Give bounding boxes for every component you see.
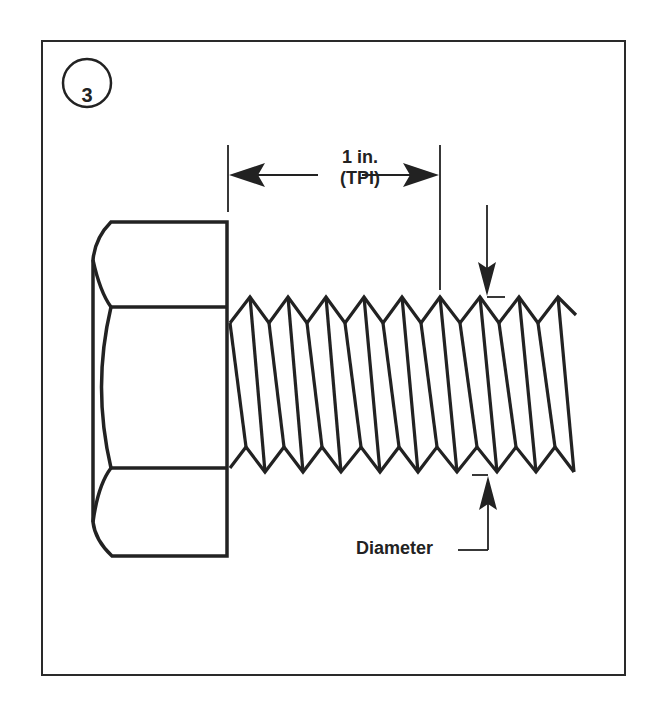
diameter-dimension bbox=[458, 205, 505, 550]
bolt-head-icon bbox=[93, 222, 227, 556]
tpi-label: (TPI) bbox=[320, 168, 400, 188]
step-number: 3 bbox=[62, 70, 112, 120]
pitch-label: 1 in. bbox=[320, 147, 400, 167]
diameter-label: Diameter bbox=[356, 538, 466, 559]
thread-shank bbox=[230, 297, 576, 472]
